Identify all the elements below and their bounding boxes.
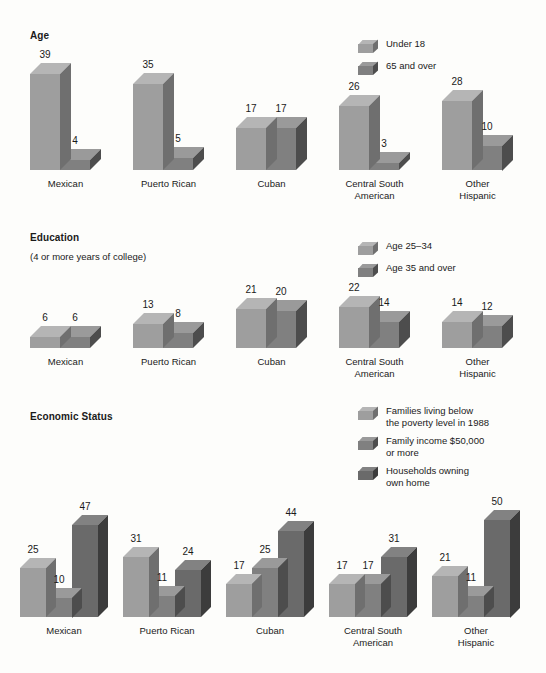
section-title-age: Age [30, 30, 49, 41]
bar-side-face [510, 510, 520, 618]
bar-side-face [201, 560, 211, 617]
bar-front-face [133, 324, 163, 348]
legend-swatch-series3 [358, 467, 378, 480]
bar-side-face [98, 515, 108, 617]
bar-front-face [30, 337, 60, 348]
category-label: Cuban [216, 178, 327, 190]
bar-value-label: 11 [143, 572, 181, 583]
bar-front-face [442, 322, 472, 348]
bar-value-label: 21 [426, 552, 464, 563]
legend-item: Family income $50,000 or more [358, 435, 489, 458]
bar-side-face [60, 63, 71, 170]
bar-side-face [296, 117, 307, 170]
bar-value-label: 28 [436, 76, 478, 87]
bar-value-label: 8 [157, 308, 199, 319]
bar-value-label: 39 [24, 49, 66, 60]
category-label: Other Hispanic [422, 178, 533, 201]
bar-value-label: 31 [375, 533, 413, 544]
bar-value-label: 35 [127, 59, 169, 70]
legend-swatch-series2 [358, 437, 378, 450]
chart-age: 394Mexican355Puerto Rican1717Cuban263Cen… [0, 60, 546, 170]
bar-front-face [30, 74, 60, 170]
bar-value-label: 44 [272, 507, 310, 518]
bar [442, 101, 472, 170]
bar-value-label: 3 [363, 138, 405, 149]
bar-side-face [304, 521, 314, 617]
bar [30, 337, 60, 348]
bar-front-face [133, 84, 163, 170]
legend-item: Under 18 [358, 38, 436, 53]
bar-front-face [442, 101, 472, 170]
bar-side-face [369, 95, 380, 170]
legend-item: Households owning own home [358, 465, 489, 488]
bar [236, 309, 266, 348]
bar-value-label: 10 [40, 574, 78, 585]
legend-economic: Families living below the poverty level … [358, 405, 489, 495]
bar-value-label: 17 [349, 560, 387, 571]
category-label: Puerto Rican [113, 356, 224, 368]
category-label: Mexican [10, 178, 121, 190]
bar-value-label: 22 [333, 282, 375, 293]
category-label: Cuban [216, 356, 327, 368]
legend-label: Under 18 [386, 38, 425, 50]
legend-label: Family income $50,000 or more [386, 435, 484, 458]
bar-value-label: 17 [260, 103, 302, 114]
chart-economic: 251047Mexican311124Puerto Rican172544Cub… [0, 497, 546, 617]
bar-value-label: 10 [466, 121, 508, 132]
bar-side-face [46, 558, 56, 617]
bar-value-label: 25 [246, 544, 284, 555]
legend-label: Families living below the poverty level … [386, 405, 489, 428]
legend-label: Age 25–34 [386, 240, 432, 252]
bar-front-face [329, 584, 355, 617]
bar-front-face [226, 584, 252, 617]
chart-education: 66Mexican138Puerto Rican2120Cuban2214Cen… [0, 288, 546, 348]
bar-value-label: 12 [466, 301, 508, 312]
legend-label: Age 35 and over [386, 262, 456, 274]
legend-swatch-series2 [358, 264, 378, 277]
bar-side-face [407, 547, 417, 617]
bar [236, 128, 266, 170]
category-label: Puerto Rican [113, 178, 224, 190]
bar-value-label: 17 [220, 560, 258, 571]
bar [442, 322, 472, 348]
bar-side-face [163, 73, 174, 170]
bar-value-label: 14 [363, 297, 405, 308]
bar [133, 84, 163, 170]
bar-value-label: 6 [54, 312, 96, 323]
category-label: Central South American [319, 356, 430, 379]
bar-value-label: 11 [452, 572, 490, 583]
bar-front-face [236, 309, 266, 348]
legend-item: Families living below the poverty level … [358, 405, 489, 428]
bar-front-face [123, 557, 149, 617]
legend-label: Households owning own home [386, 465, 469, 488]
bar [133, 324, 163, 348]
bar-front-face [236, 128, 266, 170]
legend-item: Age 25–34 [358, 240, 456, 255]
category-label: Central South American [319, 178, 430, 201]
category-label: Other Hispanic [412, 625, 540, 648]
legend-item: Age 35 and over [358, 262, 456, 277]
bar-value-label: 26 [333, 81, 375, 92]
legend-education: Age 25–34 Age 35 and over [358, 240, 456, 284]
bar-value-label: 47 [66, 501, 104, 512]
bar-front-face [339, 307, 369, 348]
bar-value-label: 24 [169, 546, 207, 557]
category-label: Other Hispanic [422, 356, 533, 379]
bar-value-label: 50 [478, 496, 516, 507]
legend-swatch-series1 [358, 40, 378, 53]
section-title-education: Education [30, 232, 79, 243]
bar [30, 74, 60, 170]
bar-side-face [278, 558, 288, 617]
legend-swatch-series1 [358, 242, 378, 255]
bar [123, 557, 149, 617]
bar-value-label: 5 [157, 133, 199, 144]
section-subtitle-education: (4 or more years of college) [30, 251, 146, 262]
bar [339, 307, 369, 348]
bar [226, 584, 252, 617]
infographic-page: Age Under 18 65 and over 394Mexican355Pu… [0, 0, 546, 673]
bar [329, 584, 355, 617]
bar-value-label: 25 [14, 544, 52, 555]
category-label: Mexican [10, 356, 121, 368]
legend-swatch-series1 [358, 407, 378, 420]
bar-value-label: 31 [117, 533, 155, 544]
